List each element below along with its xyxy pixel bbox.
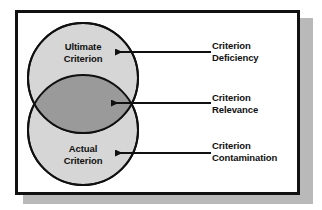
callout-criterion-relevance-line-2: Relevance [212, 104, 258, 115]
label-actual-criterion: Actual Criterion [44, 143, 122, 166]
callout-criterion-contamination: Criterion Contamination [212, 140, 277, 163]
label-ultimate-criterion-line-1: Ultimate [65, 41, 102, 52]
callout-criterion-contamination-line-2: Contamination [212, 152, 277, 163]
figure-root: Ultimate Criterion Actual Criterion Crit… [0, 0, 322, 210]
label-actual-criterion-line-2: Criterion [64, 155, 103, 166]
label-ultimate-criterion: Ultimate Criterion [44, 41, 122, 64]
callout-criterion-relevance: Criterion Relevance [212, 92, 258, 115]
callout-criterion-deficiency: Criterion Deficiency [212, 40, 259, 63]
callout-criterion-relevance-line-1: Criterion [212, 92, 251, 103]
callout-criterion-deficiency-line-2: Deficiency [212, 52, 259, 63]
label-actual-criterion-line-1: Actual [69, 143, 97, 154]
callout-criterion-deficiency-line-1: Criterion [212, 40, 251, 51]
label-ultimate-criterion-line-2: Criterion [64, 53, 103, 64]
callout-criterion-contamination-line-1: Criterion [212, 140, 251, 151]
